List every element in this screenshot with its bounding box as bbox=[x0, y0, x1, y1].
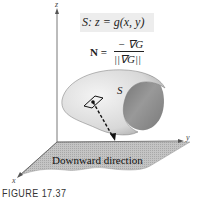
downward-direction-label: Downward direction bbox=[52, 154, 143, 166]
figure-caption: FIGURE 17.37 bbox=[2, 188, 66, 199]
normal-numerator: − ∇G bbox=[118, 38, 143, 51]
surface-equation: S: z = g(x, y) bbox=[82, 15, 144, 30]
z-axis-label: z bbox=[55, 0, 58, 9]
normal-denominator: ||∇G|| bbox=[114, 53, 141, 66]
y-axis-label: y bbox=[186, 133, 190, 142]
x-axis-label: x bbox=[12, 176, 16, 185]
normal-vector-arrow bbox=[110, 133, 116, 141]
normal-lhs: N = bbox=[90, 46, 107, 58]
fraction-bar bbox=[114, 51, 144, 52]
figure-17-37: S: z = g(x, y) N = − ∇G ||∇G|| S z y x D… bbox=[0, 0, 201, 203]
surface-label: S bbox=[117, 84, 123, 96]
